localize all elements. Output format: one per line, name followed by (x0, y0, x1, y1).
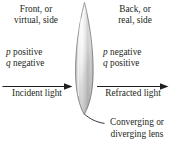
back-object-sign-word: negative (110, 47, 142, 57)
front-object-sign-word: positive (13, 47, 42, 57)
front-image-distance-sign: q negative (6, 58, 68, 69)
back-side-heading: Back, or real, side (103, 4, 167, 26)
back-side-heading-line1: Back, or (103, 4, 167, 15)
front-image-sign-word: negative (13, 58, 45, 68)
back-side-sign-conventions: p negative q positive (103, 47, 169, 69)
refracted-light-label: Refracted light (96, 88, 170, 99)
front-side-heading: Front, or virtual, side (4, 4, 68, 26)
back-image-symbol: q (103, 58, 108, 68)
front-side-heading-line1: Front, or (4, 4, 68, 15)
front-side-heading-line2: virtual, side (4, 15, 68, 26)
back-object-symbol: p (103, 47, 108, 57)
lens-caption-line1: Converging or (101, 117, 173, 129)
incident-light-label: Incident light (2, 88, 72, 99)
back-image-distance-sign: q positive (103, 58, 169, 69)
back-image-sign-word: positive (110, 58, 139, 68)
front-image-symbol: q (6, 58, 11, 68)
front-object-symbol: p (6, 47, 11, 57)
lens-shape (76, 3, 94, 115)
front-object-distance-sign: p positive (6, 47, 68, 58)
back-side-heading-line2: real, side (103, 15, 167, 26)
front-side-sign-conventions: p positive q negative (6, 47, 68, 69)
lens-caption-line2: diverging lens (101, 129, 173, 141)
lens-caption: Converging or diverging lens (101, 117, 173, 140)
lens-sign-convention-figure: Front, or virtual, side Back, or real, s… (0, 0, 173, 147)
back-object-distance-sign: p negative (103, 47, 169, 58)
